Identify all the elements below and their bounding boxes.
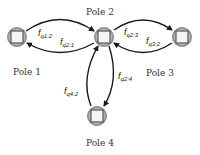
edge-pole4-to-pole2 — [87, 46, 98, 106]
flow-label-q1-2: fq1:2 — [38, 28, 53, 39]
pole-flow-diagram: Pole 1 Pole 2 Pole 3 Pole 4 fq1:2 fq2:1 … — [0, 0, 200, 155]
pole2-label: Pole 2 — [86, 7, 114, 17]
node-pole4 — [88, 107, 107, 126]
flow-label-q2-4: fq2:4 — [118, 71, 133, 82]
pole1-label: Pole 1 — [13, 67, 41, 77]
edge-pole2-to-pole4 — [104, 46, 113, 106]
flow-label-q4-2: fq4:2 — [64, 86, 79, 97]
node-square — [91, 110, 103, 122]
node-pole1 — [8, 28, 27, 47]
flow-label-q3-2: fq3:2 — [146, 36, 161, 47]
pole3-label: Pole 3 — [146, 68, 174, 78]
node-pole2 — [95, 28, 114, 47]
flow-label-q2-3: fq2:3 — [124, 27, 139, 38]
flow-label-q2-1: fq2:1 — [60, 37, 74, 48]
edge-pole1-to-pole2 — [26, 20, 94, 32]
node-square — [98, 31, 110, 43]
node-square — [11, 31, 23, 43]
pole4-label: Pole 4 — [86, 138, 114, 148]
node-pole3 — [173, 28, 192, 47]
edge-pole2-to-pole3 — [114, 20, 172, 30]
edge-pole3-to-pole2 — [114, 43, 172, 53]
node-square — [176, 31, 188, 43]
